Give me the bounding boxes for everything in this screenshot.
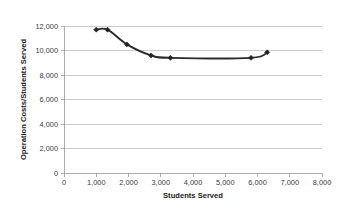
x-tick-label-1000: 1,000 xyxy=(87,178,106,187)
data-point-4 xyxy=(168,55,173,60)
data-point-0 xyxy=(94,27,99,32)
y-tick-label-10000: 10,000 xyxy=(35,46,58,55)
x-axis-title: Students Served xyxy=(163,191,223,200)
data-series-line xyxy=(96,29,267,59)
y-axis-tick-labels: 02,0004,0006,0008,00010,00012,000 xyxy=(35,22,58,178)
x-tick-label-3000: 3,000 xyxy=(152,178,171,187)
x-tick-label-2000: 2,000 xyxy=(119,178,138,187)
y-tick-label-4000: 4,000 xyxy=(40,120,59,129)
y-tick-label-12000: 12,000 xyxy=(35,22,58,31)
data-series-markers xyxy=(94,27,270,60)
y-tick-label-6000: 6,000 xyxy=(40,95,59,104)
y-axis-title: Operation Costs/Students Served xyxy=(19,39,28,160)
x-tick-label-7000: 7,000 xyxy=(281,178,300,187)
y-tick-label-2000: 2,000 xyxy=(40,144,59,153)
y-axis-tickmarks xyxy=(61,26,65,173)
x-axis-tick-labels: 01,0002,0003,0004,0005,0006,0007,0008,00… xyxy=(62,178,331,187)
data-point-5 xyxy=(249,55,254,60)
gridlines xyxy=(64,26,322,149)
y-tick-label-8000: 8,000 xyxy=(40,71,59,80)
x-axis-tickmarks xyxy=(64,173,322,177)
x-tick-label-0: 0 xyxy=(62,178,66,187)
x-tick-label-4000: 4,000 xyxy=(184,178,203,187)
x-tick-label-8000: 8,000 xyxy=(313,178,332,187)
y-tick-label-0: 0 xyxy=(54,169,58,178)
chart-container: 02,0004,0006,0008,00010,00012,000 01,000… xyxy=(0,0,355,218)
line-chart: 02,0004,0006,0008,00010,00012,000 01,000… xyxy=(0,0,355,218)
x-tick-label-5000: 5,000 xyxy=(216,178,235,187)
data-point-3 xyxy=(149,53,154,58)
x-tick-label-6000: 6,000 xyxy=(248,178,267,187)
